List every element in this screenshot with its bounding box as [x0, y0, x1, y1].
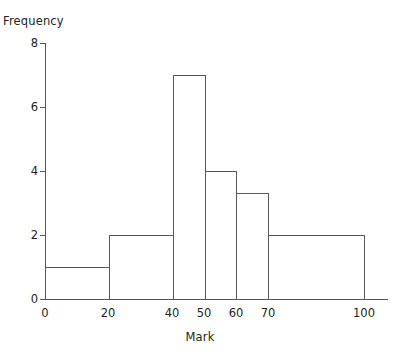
chart-plot-area — [0, 0, 412, 355]
histogram-bar — [173, 76, 205, 300]
histogram-bar — [269, 236, 365, 300]
histogram-chart: Frequency Mark 8 6 4 2 0 0 20 40 50 60 7… — [0, 0, 412, 355]
histogram-bars — [46, 76, 365, 300]
histogram-bar — [46, 268, 110, 300]
histogram-bar — [109, 236, 173, 300]
y-tick-marks — [40, 44, 45, 300]
histogram-bar — [205, 172, 237, 300]
histogram-bar — [237, 194, 269, 300]
